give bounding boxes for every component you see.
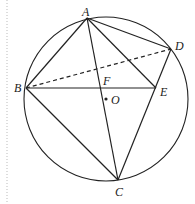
label-b: B <box>14 81 22 95</box>
segment-bc <box>26 88 118 180</box>
center-point-o <box>104 97 107 100</box>
label-o: O <box>111 93 120 107</box>
label-e: E <box>159 85 168 99</box>
label-f: F <box>102 74 111 88</box>
segment-cd <box>118 49 171 180</box>
segments <box>26 18 171 180</box>
segment-ab <box>26 18 87 88</box>
segment-ae <box>87 18 156 88</box>
label-d: D <box>174 39 184 53</box>
segment-bd <box>26 49 171 88</box>
segment-ad <box>87 18 171 49</box>
label-c: C <box>115 185 124 199</box>
geometry-diagram: A B C D E F O <box>0 0 195 204</box>
label-a: A <box>81 5 90 19</box>
